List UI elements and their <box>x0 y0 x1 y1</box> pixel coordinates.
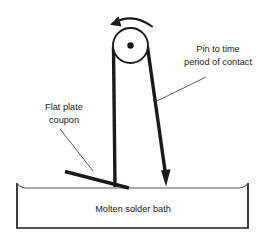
pivot-center-dot <box>127 42 133 48</box>
solder-surface-line <box>17 183 248 188</box>
pin-label-line2: period of contact <box>184 57 252 67</box>
pivot-wheel <box>113 28 148 63</box>
coupon-label-line1: Flat plate <box>45 102 83 112</box>
flat-plate-coupon <box>65 172 129 189</box>
pin-label-leader-line <box>157 77 206 101</box>
coupon-label-leader-line <box>60 129 93 171</box>
left-pendulum-arm <box>114 47 116 187</box>
counterclockwise-rotation-arrow <box>110 16 152 26</box>
pin-label-line1: Pin to time <box>196 44 239 54</box>
solder-bath-diagram: Pin to time period of contact Flat plate… <box>0 0 268 242</box>
coupon-label-line2: coupon <box>49 115 79 125</box>
right-arm-shaft <box>148 47 166 172</box>
rotation-arrowhead-icon <box>110 16 121 26</box>
diagram-canvas: Pin to time period of contact Flat plate… <box>0 0 268 242</box>
bath-label: Molten solder bath <box>95 204 171 214</box>
right-pendulum-arm-with-pin <box>148 47 171 187</box>
pin-arrowhead-icon <box>161 169 171 186</box>
